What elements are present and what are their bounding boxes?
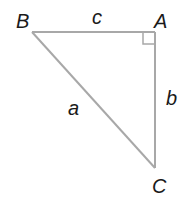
side-label-a: a [68, 97, 79, 119]
vertex-label-b: B [16, 10, 29, 32]
vertex-label-c: C [152, 175, 167, 197]
side-label-b: b [166, 87, 177, 109]
right-angle-marker-icon [143, 32, 155, 44]
side-label-c: c [92, 6, 102, 28]
right-triangle-diagram: B A C c b a [0, 0, 190, 200]
vertex-label-a: A [153, 10, 167, 32]
side-a-hypotenuse [32, 32, 155, 168]
